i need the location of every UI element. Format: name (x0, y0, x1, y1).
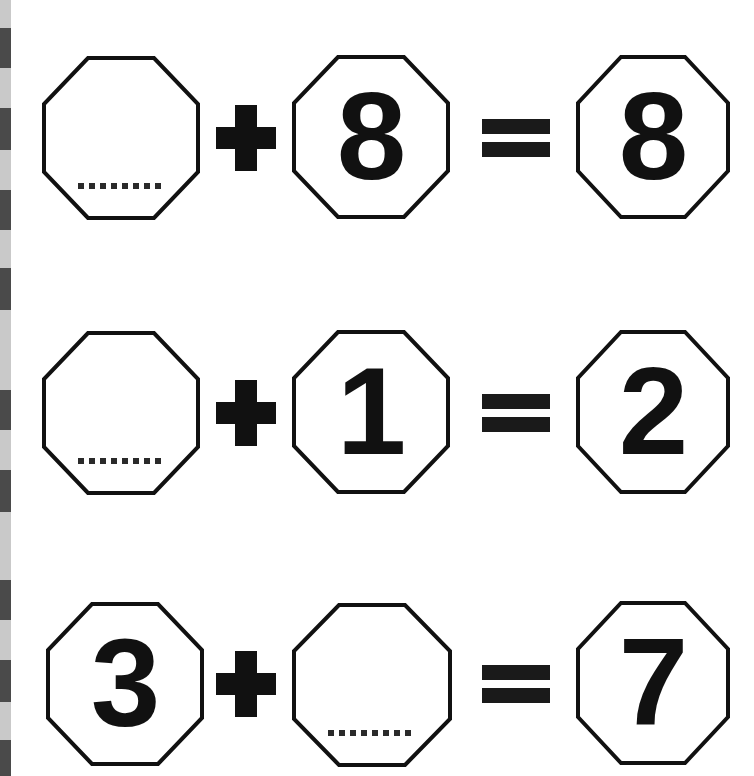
plus-operator-icon: + (216, 651, 276, 717)
plus-operator-icon: + (216, 380, 276, 446)
equation-2-right-operand[interactable]: 1 (292, 330, 450, 494)
equation-1-left-operand[interactable] (42, 56, 200, 220)
equation-2-result-value: 2 (576, 330, 730, 494)
equation-2-left-operand[interactable] (42, 331, 200, 495)
equation-3-right-operand-value (292, 603, 452, 767)
equation-2-left-operand-blank[interactable] (78, 458, 166, 464)
equation-3-result-value: 7 (576, 601, 730, 765)
equals-operator-icon: = (482, 394, 550, 432)
worksheet-page: Addition Worksheet - Missing Addend Octa… (0, 0, 754, 776)
equation-2-result[interactable]: 2 (576, 330, 730, 494)
equation-1-result[interactable]: 8 (576, 55, 730, 219)
equation-1-left-operand-blank[interactable] (78, 183, 166, 189)
equation-row-2: + 1 = 2 (0, 315, 754, 515)
equation-3-left-operand-value: 3 (46, 602, 204, 766)
equation-3-left-operand[interactable]: 3 (46, 602, 204, 766)
plus-operator-icon: + (216, 105, 276, 171)
equals-operator-icon: = (482, 665, 550, 703)
equation-row-3: 3 + = 7 (0, 588, 754, 776)
equation-2-left-operand-value (42, 331, 200, 495)
equation-2-right-operand-value: 1 (292, 330, 450, 494)
equals-operator-icon: = (482, 119, 550, 157)
equation-1-result-value: 8 (576, 55, 730, 219)
binding-hole (0, 268, 11, 310)
equation-3-right-operand[interactable] (292, 603, 452, 767)
equation-3-right-operand-blank[interactable] (328, 730, 416, 736)
equation-1-right-operand[interactable]: 8 (292, 55, 450, 219)
equation-3-result[interactable]: 7 (576, 601, 730, 765)
equation-1-right-operand-value: 8 (292, 55, 450, 219)
equation-row-1: + 8 = 8 (0, 40, 754, 240)
equation-1-left-operand-value (42, 56, 200, 220)
